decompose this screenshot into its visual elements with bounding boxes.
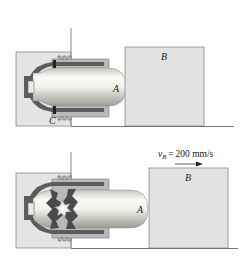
velocity-label: vB=200 mm/s: [158, 149, 214, 160]
bottom-panel: vB=200 mm/s A B: [16, 149, 238, 249]
arrowhead-icon: [196, 162, 203, 167]
diagram-canvas: A B C vB=200 mm/s A B: [0, 0, 248, 269]
capsule-nozzle: [28, 81, 34, 93]
inner-rail-bottom: [52, 108, 104, 112]
label-a-2: A: [136, 204, 144, 215]
inner-rail-top: [52, 62, 104, 66]
inner-rail-bottom-2: [52, 230, 104, 234]
inner-rail-top-2: [52, 182, 104, 186]
capsule-rear: [34, 190, 54, 228]
label-b-2: B: [185, 172, 191, 183]
gear-teeth-top: [58, 56, 71, 59]
top-panel: A B C: [16, 28, 234, 127]
gear-teeth-bottom-2: [58, 238, 71, 241]
gear-teeth-bottom: [58, 117, 71, 120]
latch-top: [53, 60, 56, 68]
capsule-nozzle-2: [28, 203, 34, 215]
label-b: B: [161, 51, 167, 62]
label-c: C: [49, 115, 56, 126]
gear-teeth-top-2: [58, 176, 71, 179]
latch-bottom: [53, 106, 56, 114]
label-a: A: [112, 83, 120, 94]
